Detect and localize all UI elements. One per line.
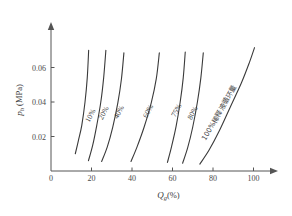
curve-label-80pct: 80%: [185, 105, 199, 121]
chart-container: 0204060801000.020.040.06 10%20%40%60%75%…: [0, 0, 292, 216]
x-tick-label: 20: [88, 174, 96, 183]
tick-marks-group: [51, 68, 254, 172]
x-axis-title-unit: (%): [167, 190, 180, 200]
x-tick-label: 0: [49, 174, 53, 183]
axes-group: [48, 22, 278, 174]
y-tick-label: 0.04: [32, 98, 46, 107]
chart-plot-area: 0204060801000.020.040.06 10%20%40%60%75%…: [0, 0, 292, 216]
curve-label-60pct: 60%: [141, 103, 155, 119]
curve-label-20pct: 20%: [96, 105, 110, 121]
x-tick-label: 40: [128, 174, 136, 183]
curve-label-100pct稀释液循环量: 100%稀释液循环量: [200, 84, 239, 142]
x-axis-title: Qg(%): [157, 190, 180, 201]
y-axis-title-unit: (MPa): [14, 84, 24, 108]
y-tick-label: 0.06: [32, 64, 46, 73]
curve-label-40pct: 40%: [111, 104, 125, 120]
y-tick-label: 0.02: [32, 133, 46, 142]
curve-10pct: [75, 50, 88, 154]
curve-label-10pct: 10%: [83, 107, 97, 123]
x-tick-label: 60: [169, 174, 177, 183]
x-axis-arrow-icon: [270, 168, 278, 174]
curve-label-75pct: 75%: [169, 102, 183, 118]
curve-labels-group: 10%20%40%60%75%80%100%稀释液循环量: [83, 84, 238, 142]
x-tick-label: 100: [248, 174, 260, 183]
x-tick-label: 80: [209, 174, 217, 183]
y-axis-arrow-icon: [48, 22, 54, 30]
y-axis-title: ph (MPa): [14, 84, 25, 117]
